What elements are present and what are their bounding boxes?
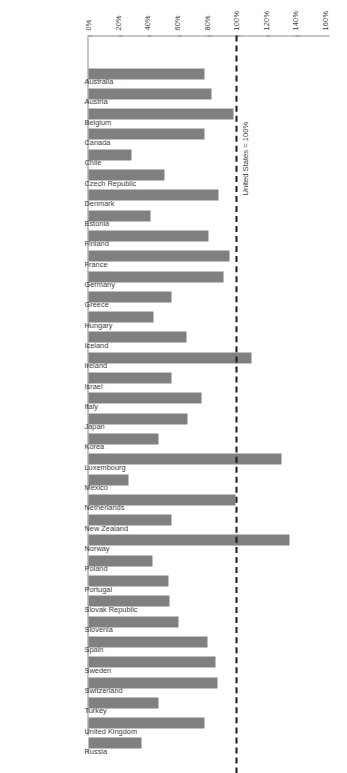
category-label: Hungary (84, 320, 112, 329)
category-label: Italy (84, 401, 98, 410)
bar (88, 352, 251, 363)
category-label: Ireland (84, 360, 107, 369)
bar (88, 534, 289, 545)
reference-line-label: United States = 100% (240, 121, 249, 195)
bar (88, 392, 201, 403)
category-label: Denmark (84, 198, 114, 207)
category-label: Norway (84, 543, 109, 552)
value-tick-label: 160% (321, 10, 330, 30)
value-tick-label: 20% (113, 15, 122, 30)
bar (88, 250, 229, 261)
category-label: Austria (84, 96, 107, 105)
value-tick-label: 140% (291, 10, 300, 30)
category-label: Canada (84, 137, 110, 146)
category-label: Belgium (84, 117, 111, 126)
value-tick-label: 120% (261, 10, 270, 30)
category-label: Luxembourg (84, 462, 125, 471)
category-label: New Zealand (84, 523, 128, 532)
category-label: Israel (84, 381, 102, 390)
category-label: Mexico (84, 482, 107, 491)
value-tick (325, 35, 329, 36)
category-label: Estonia (84, 218, 109, 227)
category-label: Australia (84, 76, 113, 85)
category-label: Slovenia (84, 624, 112, 633)
category-label: Sweden (84, 665, 111, 674)
category-label: Greece (84, 299, 108, 308)
category-label: Iceland (84, 340, 108, 349)
value-tick-label: 80% (202, 15, 211, 30)
category-label: France (84, 259, 107, 268)
reference-line (235, 35, 237, 773)
category-label: Czech Republic (84, 178, 136, 187)
category-label: Korea (84, 441, 104, 450)
value-tick-label: 40% (143, 15, 152, 30)
category-label: Netherlands (84, 502, 124, 511)
category-label: Poland (84, 563, 107, 572)
category-label: Chile (84, 157, 101, 166)
category-label: Turkey (84, 705, 106, 714)
value-tick-label: 0% (84, 19, 93, 30)
bar (88, 636, 207, 647)
category-label: Finland (84, 238, 108, 247)
category-label: Portugal (84, 584, 112, 593)
category-label: Slovak Republic (84, 604, 137, 613)
rotated-plot-wrapper: 0%20%40%60%80%100%120%140%160%AustraliaA… (0, 0, 347, 773)
chart-container: 0%20%40%60%80%100%120%140%160%AustraliaA… (0, 0, 347, 773)
category-label: Russia (84, 746, 107, 755)
category-label: Germany (84, 279, 114, 288)
category-label: Spain (84, 644, 103, 653)
value-axis-spine (88, 35, 325, 36)
category-label: Japan (84, 421, 104, 430)
category-label: United Kingdom (84, 726, 137, 735)
plot-area: 0%20%40%60%80%100%120%140%160%AustraliaA… (0, 0, 347, 773)
category-label: Switzerland (84, 685, 122, 694)
value-tick-label: 100% (232, 10, 241, 30)
value-tick-label: 60% (172, 15, 181, 30)
